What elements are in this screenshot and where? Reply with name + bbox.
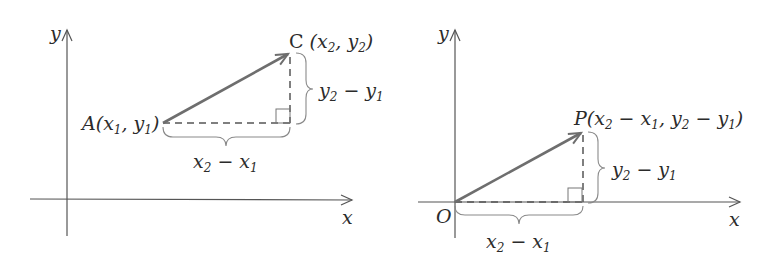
left-right-angle-marker [276,109,290,123]
left-x-axis-label: x [342,206,353,228]
left-x-axis [30,199,352,200]
point-P-label: P(x2 − x1, y2 − y1) [573,107,743,132]
right-vertical-brace-label: y2 − y1 [611,158,677,183]
right-y-axis-label: y [437,22,449,44]
right-panel: y x O P(x2 − x1, y2 − y1) x2 − x1 y2 − y… [418,22,743,255]
origin-label: O [436,205,452,227]
left-vector-AC [163,54,288,123]
right-right-angle-marker [568,188,582,202]
vector-translation-diagram: y x A(x1, y1) C (x2, y2) x2 − x1 y2 − y1… [0,0,769,265]
left-panel: y x A(x1, y1) C (x2, y2) x2 − x1 y2 − y1 [30,22,384,236]
left-point-A-label: A(x1, y1) [80,112,159,137]
right-x-axis-label: x [729,208,740,230]
left-horizontal-brace [163,127,290,146]
left-vertical-brace [296,53,313,124]
right-horizontal-brace-label: x2 − x1 [486,230,551,255]
left-horizontal-brace-label: x2 − x1 [193,150,258,175]
left-y-axis-label: y [49,22,61,44]
right-vertical-brace [588,132,605,203]
left-point-C-label: C (x2, y2) [289,30,373,55]
left-vertical-brace-label: y2 − y1 [318,79,384,104]
right-horizontal-brace [455,206,583,224]
right-vector-OP [455,133,581,202]
